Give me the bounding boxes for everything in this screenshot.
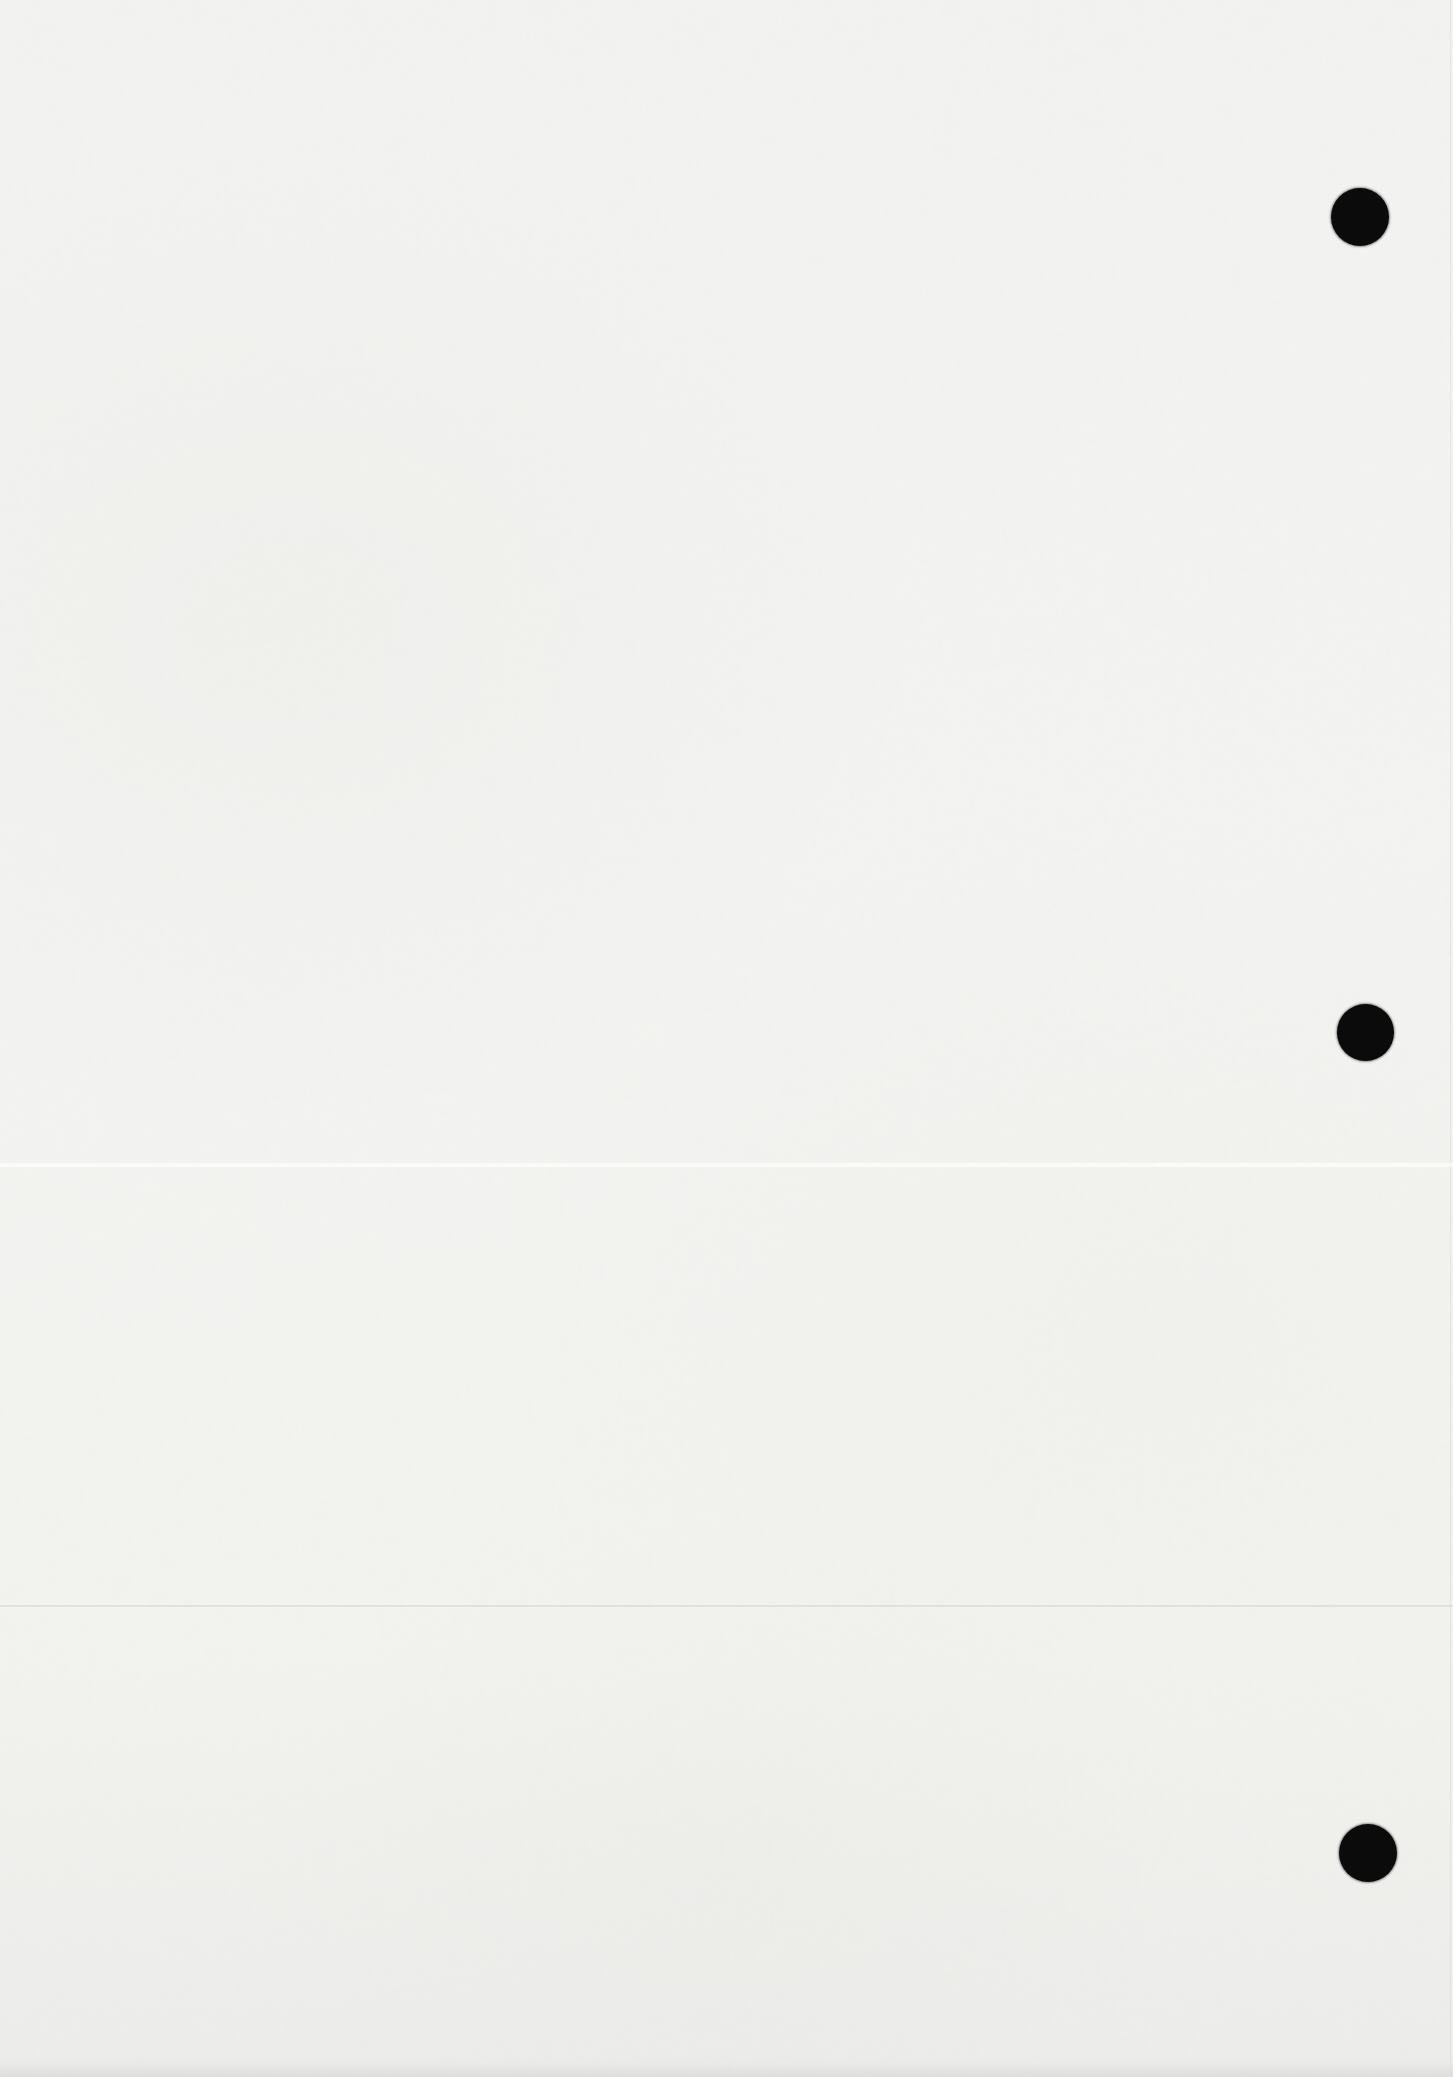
bottom-scan-edge [0,2065,1453,2077]
paper-texture [0,0,1453,2077]
scanned-page [0,0,1453,2077]
faint-scan-line [0,1605,1453,1607]
punch-hole-middle [1337,1004,1394,1061]
light-scan-streak [0,1163,1453,1167]
punch-hole-top [1331,188,1389,246]
punch-hole-bottom [1339,1824,1397,1882]
right-scan-edge [1450,0,1451,2077]
